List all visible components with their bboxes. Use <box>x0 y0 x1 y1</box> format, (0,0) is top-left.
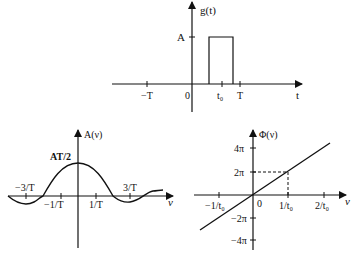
tick-minus-1-over-T: −1/T <box>44 199 64 210</box>
A-label: A(ν) <box>84 129 102 141</box>
tick-minus-3-over-T: −3/T <box>15 182 35 193</box>
g-label: g(t) <box>200 4 216 17</box>
tick-zero: 0 <box>185 90 190 101</box>
tick-3-over-T: 3/T <box>123 182 137 193</box>
tick-2pi: 2π <box>234 167 244 178</box>
tick-T: T <box>237 90 243 101</box>
tick-1-over-t0: 1/t₀ <box>279 200 294 211</box>
tick-2-over-t0: 2/t₀ <box>315 200 330 211</box>
tick-minus-4pi: −4π <box>231 235 247 246</box>
time-domain-plot: g(t) A −T 0 t₀ T t <box>112 2 302 112</box>
tick-minus-1-over-t0: −1/t₀ <box>205 200 225 211</box>
phase-spectrum-plot: Φ(ν) 4π 2π −2π −4π 0 −1/t₀ 1/t₀ 2/t₀ ν <box>194 129 350 250</box>
t-label: t <box>296 89 299 101</box>
amplitude-label: A <box>177 31 185 43</box>
rect-pulse <box>209 37 233 84</box>
nu-label: ν <box>168 196 173 208</box>
tick-4pi: 4π <box>234 143 244 154</box>
tick-1-over-T: 1/T <box>89 199 103 210</box>
diagram: g(t) A −T 0 t₀ T t A(ν) AT/2 −3/T −1/T 1… <box>0 0 356 259</box>
amplitude-spectrum-plot: A(ν) AT/2 −3/T −1/T 1/T 3/T ν <box>8 129 173 248</box>
phase-line <box>200 143 330 230</box>
origin-label: 0 <box>257 198 262 209</box>
tick-t0: t₀ <box>217 90 224 101</box>
tick-minus-T: −T <box>141 90 153 101</box>
tick-minus-2pi: −2π <box>231 213 247 224</box>
peak-label: AT/2 <box>50 151 71 162</box>
nu-label: ν <box>345 195 350 207</box>
phi-label: Φ(ν) <box>259 129 278 141</box>
